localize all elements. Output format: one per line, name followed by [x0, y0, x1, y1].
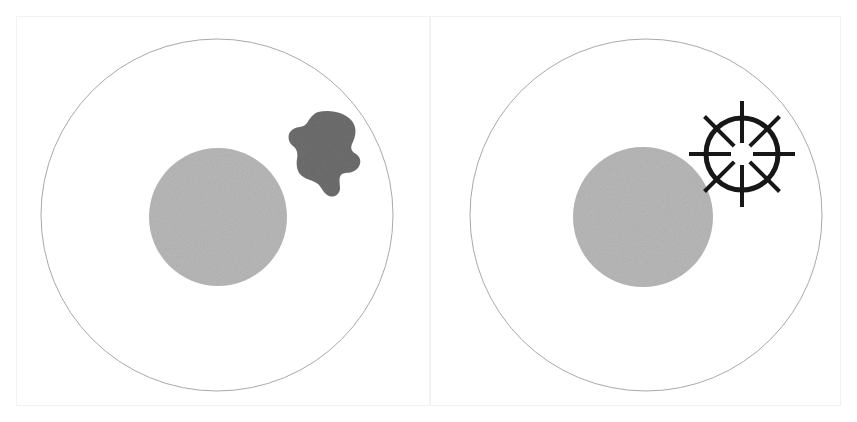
left-panel	[0, 0, 429, 422]
right-inner-disc	[573, 147, 713, 287]
left-inner-disc	[149, 148, 287, 286]
left-panel-graphic	[0, 0, 429, 422]
right-panel-graphic	[428, 0, 857, 422]
right-panel	[428, 0, 857, 422]
figure-root	[0, 0, 857, 422]
